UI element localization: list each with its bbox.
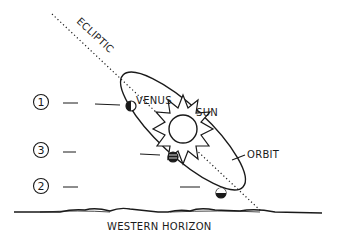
svg-text:2: 2 — [38, 180, 45, 193]
venus-label: VENUS — [136, 95, 172, 106]
svg-text:1: 1 — [38, 96, 45, 109]
horizon-line — [14, 208, 322, 213]
position-marker-3: 3 — [34, 143, 161, 158]
position-marker-1: 1 — [34, 95, 121, 110]
sun-label: SUN — [196, 107, 218, 118]
ecliptic-label: ECLIPTIC — [75, 15, 116, 55]
orbit-label: ORBIT — [247, 149, 280, 160]
venus-diagram: ECLIPTIC VENUS SUN ORBIT 1 3 2 — [0, 0, 339, 242]
venus-position-1-icon — [126, 101, 136, 111]
venus-position-2-icon — [216, 188, 226, 198]
horizon-label: WESTERN HORIZON — [107, 221, 212, 232]
svg-text:3: 3 — [38, 144, 45, 157]
venus-position-3-icon — [168, 152, 178, 162]
position-marker-2: 2 — [34, 179, 201, 194]
